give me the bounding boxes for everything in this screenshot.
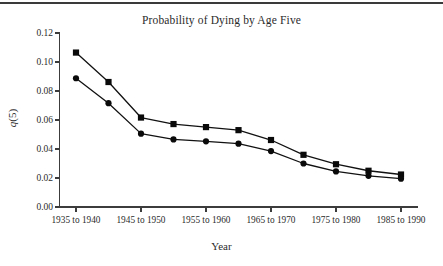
y-axis-title-italic: q bbox=[6, 122, 18, 128]
data-point-marker-circle bbox=[235, 141, 241, 147]
y-axis-title-rest: (5) bbox=[6, 109, 18, 122]
data-point-marker-square bbox=[105, 79, 111, 85]
x-tick-label: 1985 to 1990 bbox=[362, 215, 440, 226]
data-point-marker-square bbox=[138, 114, 144, 120]
data-point-marker-circle bbox=[203, 138, 209, 144]
data-point-marker-square bbox=[170, 121, 176, 127]
y-tick-label: 0.10 bbox=[19, 57, 53, 67]
data-point-marker-circle bbox=[398, 176, 404, 182]
data-point-marker-square bbox=[333, 161, 339, 167]
y-tick-label: 0.02 bbox=[19, 173, 53, 183]
y-axis-title: q(5) bbox=[6, 88, 18, 148]
data-point-marker-circle bbox=[105, 100, 111, 106]
data-point-marker-circle bbox=[138, 131, 144, 137]
x-axis-title: Year bbox=[0, 240, 443, 252]
plot-canvas bbox=[0, 0, 443, 266]
data-point-marker-circle bbox=[268, 148, 274, 154]
data-point-marker-circle bbox=[365, 173, 371, 179]
y-tick-label: 0.00 bbox=[19, 202, 53, 212]
data-point-marker-circle bbox=[333, 168, 339, 174]
axis-lines bbox=[60, 33, 419, 208]
data-point-marker-square bbox=[300, 152, 306, 158]
y-tick-label: 0.06 bbox=[19, 115, 53, 125]
y-tick-label: 0.04 bbox=[19, 144, 53, 154]
data-point-marker-circle bbox=[170, 136, 176, 142]
figure-container: Probability of Dying by Age Five 0.000.0… bbox=[0, 0, 443, 266]
data-point-marker-square bbox=[203, 124, 209, 130]
y-tick-label: 0.12 bbox=[19, 28, 53, 38]
data-point-marker-circle bbox=[73, 75, 79, 81]
data-point-marker-circle bbox=[300, 160, 306, 166]
y-tick-label: 0.08 bbox=[19, 86, 53, 96]
data-point-marker-square bbox=[235, 127, 241, 133]
series-line-upper bbox=[76, 53, 401, 175]
data-point-marker-square bbox=[268, 137, 274, 143]
data-point-marker-square bbox=[73, 49, 79, 55]
